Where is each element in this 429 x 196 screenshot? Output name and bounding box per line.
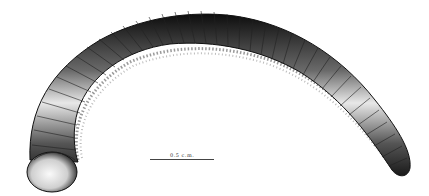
scale-bar — [150, 159, 214, 160]
illustration: 0.5 c.m. — [0, 0, 429, 196]
millipede-drawing — [0, 0, 429, 196]
millipede-head — [27, 152, 77, 192]
scale-bar-label: 0.5 c.m. — [170, 152, 194, 158]
millipede-body — [30, 14, 410, 176]
